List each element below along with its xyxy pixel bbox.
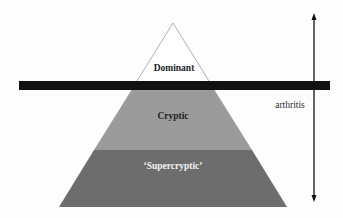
diagram-canvas: Dominant Cryptic ‘Supercryptic’ arthriti…	[0, 0, 343, 218]
arthritis-axis-label: arthritis	[275, 101, 305, 111]
double-arrow-icon	[312, 13, 317, 202]
supercryptic-label: ‘Supercryptic’	[144, 162, 203, 172]
supercryptic-layer	[59, 150, 287, 207]
dominant-label: Dominant	[154, 64, 195, 74]
dominant-layer	[132, 23, 215, 90]
cryptic-label: Cryptic	[157, 112, 188, 122]
threshold-bar	[19, 81, 330, 90]
